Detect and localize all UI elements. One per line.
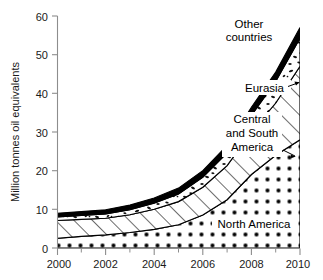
y-axis-title: Million tonnes oil equivalents [9,61,21,202]
x-tick-label-2010: 2010 [286,258,310,270]
x-tick-label-2004: 2004 [142,258,166,270]
eurasia-label: Eurasia [245,82,285,94]
annotation-north-america: North America [212,217,296,231]
y-axis: 60 50 40 30 20 10 0 Million tonnes oil e… [9,11,58,255]
y-tick-label-50: 50 [36,49,48,61]
central-label-line1: Central [233,113,270,125]
north-america-label: North America [218,218,291,230]
central-label-line3: America [231,141,274,153]
other-countries-label-line1: Other [235,18,264,30]
central-label-line2: and South [226,127,278,139]
y-tick-label-40: 40 [36,88,48,100]
stacked-area-chart: 60 50 40 30 20 10 0 Million tonnes oil e… [0,0,323,280]
x-tick-label-2006: 2006 [191,258,215,270]
chart-container: 60 50 40 30 20 10 0 Million tonnes oil e… [0,0,323,280]
x-axis: 2000 2002 2004 2006 2008 2010 [47,249,310,271]
other-countries-label-line2: countries [226,31,273,43]
y-tick-label-60: 60 [36,11,48,23]
y-tick-label-0: 0 [42,243,48,255]
y-tick-label-30: 30 [36,127,48,139]
x-tick-label-2002: 2002 [93,258,117,270]
x-tick-label-2000: 2000 [47,258,71,270]
annotation-other-countries: Other countries [218,17,280,47]
y-tick-label-20: 20 [36,165,48,177]
y-tick-label-10: 10 [36,204,48,216]
x-tick-label-2008: 2008 [239,258,263,270]
